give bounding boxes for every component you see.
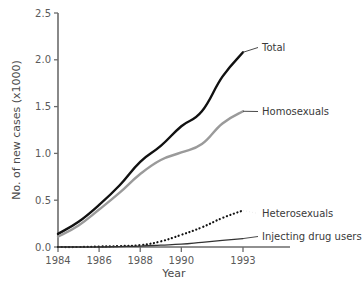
chart-figure: 0.00.51.01.52.02.5 19841986198819901993 … xyxy=(0,0,363,288)
x-axis-tick-labels: 19841986198819901993 xyxy=(45,255,255,266)
series-label-heterosexuals: Heterosexuals xyxy=(262,208,333,219)
series-label-group: TotalHomosexualsHeterosexualsInjecting d… xyxy=(261,42,362,242)
chart-series-group xyxy=(58,52,243,247)
y-tick-label: 2.5 xyxy=(35,8,51,19)
series-line-homosexuals xyxy=(58,111,243,236)
leader-line-total xyxy=(243,48,258,53)
series-label-injecting-drug-users: Injecting drug users xyxy=(262,231,362,242)
series-leader-lines xyxy=(243,48,258,239)
y-axis-title: No. of new cases (x1000) xyxy=(10,60,23,200)
x-axis-title: Year xyxy=(161,267,186,280)
series-label-total: Total xyxy=(261,42,285,53)
leader-line-injecting-drug-users xyxy=(243,237,258,239)
series-line-total xyxy=(58,52,243,234)
x-tick-label: 1988 xyxy=(127,255,152,266)
y-tick-label: 2.0 xyxy=(35,54,51,65)
y-tick-label: 0.0 xyxy=(35,242,51,253)
x-tick-label: 1993 xyxy=(230,255,255,266)
series-label-homosexuals: Homosexuals xyxy=(262,106,329,117)
x-tick-label: 1986 xyxy=(86,255,111,266)
y-axis-tick-labels: 0.00.51.01.52.02.5 xyxy=(35,8,51,253)
y-tick-label: 1.5 xyxy=(35,101,51,112)
y-tick-label: 1.0 xyxy=(35,148,51,159)
line-chart-canvas: 0.00.51.01.52.02.5 19841986198819901993 … xyxy=(0,0,363,288)
y-tick-label: 0.5 xyxy=(35,195,51,206)
leader-line-heterosexuals xyxy=(243,210,258,213)
x-tick-label: 1984 xyxy=(45,255,70,266)
x-tick-label: 1990 xyxy=(169,255,194,266)
